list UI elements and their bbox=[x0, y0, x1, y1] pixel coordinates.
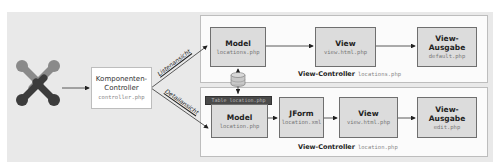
component-controller-box: Komponenten- Controller controller.php bbox=[91, 67, 152, 109]
box-title: View-Ausgabe bbox=[418, 105, 476, 123]
detail-model-box: Model location.php bbox=[211, 104, 268, 138]
list-model-box: Model locations.php bbox=[210, 27, 266, 67]
detail-jform-box: JForm location.xml bbox=[279, 97, 324, 138]
box-file: location.php bbox=[220, 122, 260, 130]
component-controller-title-1: Komponenten- bbox=[96, 75, 147, 84]
box-title: View bbox=[335, 39, 355, 48]
list-view-output-box: View-Ausgabe default.php bbox=[417, 27, 477, 67]
database-icon bbox=[231, 73, 245, 87]
connector-lines bbox=[0, 0, 495, 163]
box-file: view.html.php bbox=[324, 48, 367, 56]
list-view-controller-label: View-Controllerlocations.php bbox=[298, 70, 401, 78]
detail-view-output-box: View-Ausgabe edit.php bbox=[417, 97, 477, 138]
vc-label-file: location.php bbox=[358, 144, 398, 150]
box-file: default.php bbox=[429, 52, 465, 60]
list-view-box: View view.html.php bbox=[315, 27, 376, 67]
box-file: edit.php bbox=[434, 123, 461, 131]
box-title: View bbox=[358, 109, 378, 118]
box-file: location.xml bbox=[282, 118, 322, 126]
box-file: locations.php bbox=[216, 48, 259, 56]
vc-label-file: locations.php bbox=[358, 71, 401, 77]
box-file: view.html.php bbox=[347, 118, 390, 126]
vc-label-text: View-Controller bbox=[298, 70, 355, 78]
component-controller-title-2: Controller bbox=[104, 84, 138, 93]
vc-label-text: View-Controller bbox=[298, 143, 355, 151]
box-title: Model bbox=[225, 39, 251, 48]
box-title: Model bbox=[227, 113, 253, 122]
joomla-logo-icon bbox=[16, 60, 60, 106]
box-title: View-Ausgabe bbox=[418, 34, 476, 52]
detail-view-box: View view.html.php bbox=[339, 97, 398, 138]
box-title: JForm bbox=[289, 109, 313, 118]
detail-view-controller-label: View-Controllerlocation.php bbox=[298, 143, 398, 151]
component-controller-file: controller.php bbox=[98, 93, 144, 101]
